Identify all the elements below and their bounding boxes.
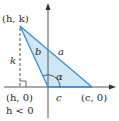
vertex-hk-label: (h, k) — [2, 13, 29, 24]
height-k-label: k — [10, 55, 16, 66]
x-axis-arrow-icon — [109, 85, 116, 90]
side-a-label: a — [58, 46, 64, 57]
side-b-label: b — [35, 46, 41, 57]
condition-label: h < 0 — [6, 105, 34, 116]
y-axis-arrow-icon — [46, 3, 51, 10]
right-angle-marker — [20, 81, 26, 87]
angle-alpha-label: α — [56, 71, 63, 82]
triangle-diagram: (h, k) b a k α (h, 0) c (c, 0) h < 0 — [0, 0, 119, 121]
foot-h0-label: (h, 0) — [6, 92, 33, 103]
point-c0-label: (c, 0) — [81, 92, 107, 103]
side-c-label: c — [56, 92, 62, 103]
